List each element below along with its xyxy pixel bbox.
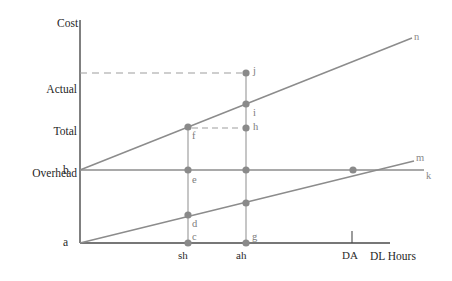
x-tick-label-sh: sh	[178, 249, 188, 262]
point-label-d: d	[192, 218, 197, 230]
point-label-f: f	[192, 130, 196, 142]
x-tick-label-ah: ah	[236, 249, 246, 262]
data-point-h	[242, 124, 249, 131]
x-axis-title: DL Hours	[370, 250, 416, 263]
data-point-d	[184, 211, 191, 218]
data-point-ah-b	[242, 166, 249, 173]
data-point-f	[184, 123, 191, 130]
point-label-h: h	[253, 121, 258, 133]
data-point-i	[242, 100, 249, 107]
y-tick-label-b: b	[63, 164, 69, 177]
data-point-g	[242, 239, 249, 246]
y-axis-title: Cost	[57, 17, 78, 30]
y-tick-label-a: a	[63, 236, 68, 249]
data-point-c	[184, 239, 191, 246]
point-label-i: i	[253, 107, 256, 119]
point-label-c: c	[192, 231, 197, 243]
x-tick-label-da: DA	[342, 249, 358, 262]
actual-total-overhead-line-1: Actual	[0, 82, 77, 96]
actual-total-overhead-line-2: Total	[0, 124, 77, 138]
data-point-j	[242, 69, 249, 76]
line-label-n: n	[414, 31, 419, 43]
point-label-j: j	[253, 65, 256, 77]
line-label-m: m	[416, 152, 424, 164]
data-point-da-b	[349, 166, 356, 173]
actual-total-overhead-label: Actual Total Overhead	[0, 54, 77, 208]
data-point-e	[184, 166, 191, 173]
overhead-variance-chart: Cost DL Hours Actual Total Overhead b a …	[0, 0, 452, 281]
point-label-g: g	[252, 231, 257, 243]
line-label-k: k	[426, 170, 431, 182]
data-point-ah-m	[242, 199, 249, 206]
point-label-e: e	[192, 174, 197, 186]
